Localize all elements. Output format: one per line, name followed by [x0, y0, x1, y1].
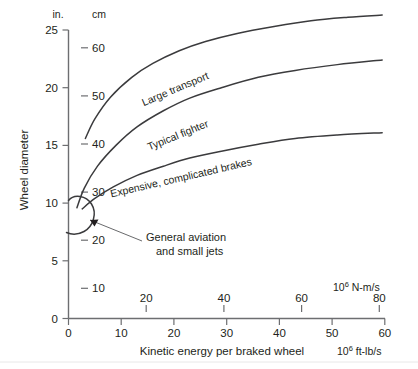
- y-tick-label-0: 0: [52, 313, 58, 325]
- annotation-line-2: and small jets: [156, 245, 224, 257]
- y-tick-label-15: 15: [45, 139, 58, 151]
- annotation-line-1: General aviation: [146, 231, 226, 243]
- y2-tick-label-20: 20: [92, 234, 105, 246]
- y-tick-label-20: 20: [45, 82, 58, 94]
- y2-tick-label-50: 50: [92, 90, 105, 102]
- y-axis-primary-unit: in.: [52, 8, 63, 20]
- y-axis-secondary-unit: cm: [92, 8, 106, 20]
- x-axis-title: Kinetic energy per braked wheel: [140, 345, 304, 357]
- x-axis-primary-unit: 106 ft-lb/s: [337, 344, 381, 357]
- y-axis-title: Wheel diameter: [18, 130, 30, 211]
- x-tick-label-20: 20: [168, 327, 181, 339]
- x-tick-label-50: 50: [326, 327, 339, 339]
- kinetic-energy-wheel-diameter-chart: 25 20 15 10 5 0 in. 60 50 40 30 20 10 cm…: [0, 0, 418, 369]
- x2-tick-label-60: 60: [295, 292, 308, 304]
- x2-tick-label-40: 40: [218, 292, 231, 304]
- y-tick-label-10: 10: [45, 197, 58, 209]
- y2-tick-label-40: 40: [92, 138, 105, 150]
- y2-tick-label-60: 60: [92, 42, 105, 54]
- chart-background: [0, 0, 418, 369]
- y-tick-label-5: 5: [52, 255, 58, 267]
- x2-tick-label-80: 80: [373, 292, 386, 304]
- y2-tick-label-10: 10: [92, 282, 105, 294]
- x-tick-label-40: 40: [273, 327, 286, 339]
- y-tick-label-25: 25: [45, 24, 58, 36]
- x-axis-secondary-unit: 106 N-m/s: [333, 280, 380, 293]
- chart-container: 25 20 15 10 5 0 in. 60 50 40 30 20 10 cm…: [0, 0, 418, 369]
- x2-tick-label-20: 20: [140, 292, 153, 304]
- x-tick-label-10: 10: [115, 327, 128, 339]
- x-tick-label-60: 60: [378, 327, 391, 339]
- x-tick-label-30: 30: [220, 327, 233, 339]
- x-tick-label-0: 0: [65, 327, 71, 339]
